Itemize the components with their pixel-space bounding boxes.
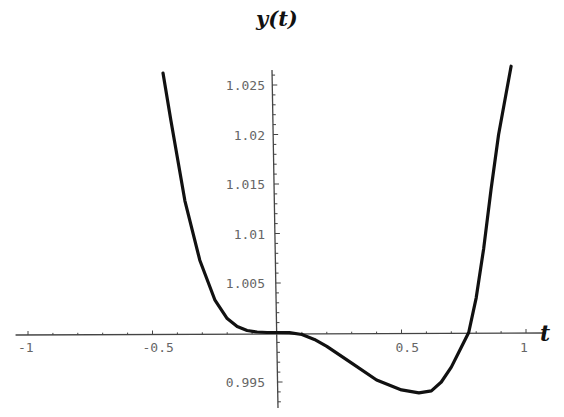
data-curve xyxy=(163,66,511,393)
y-tick-label: 1.01 xyxy=(234,227,265,242)
x-tick-label: -0.5 xyxy=(143,340,174,355)
axes: -1-0.50.510.9951.0051.011.0151.021.025 xyxy=(16,70,546,408)
x-tick-label: 1 xyxy=(520,340,528,355)
y-tick-label: 1.005 xyxy=(226,276,265,291)
y-tick-label: 1.025 xyxy=(226,78,265,93)
x-tick-label: -1 xyxy=(18,340,34,355)
y-axis xyxy=(272,70,278,408)
y-tick-label: 1.02 xyxy=(234,128,265,143)
x-axis-label: t xyxy=(540,320,550,346)
plot-area: -1-0.50.510.9951.0051.011.0151.021.025 t xyxy=(0,0,564,417)
x-tick-label: 0.5 xyxy=(396,340,419,355)
y-tick-label: 1.015 xyxy=(226,177,265,192)
y-tick-label: 0.995 xyxy=(226,375,265,390)
